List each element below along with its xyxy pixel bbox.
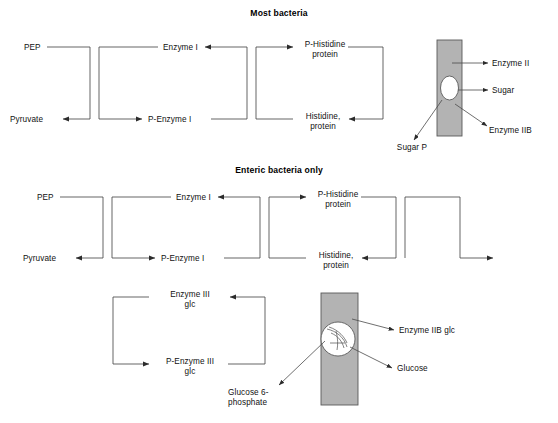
- membrane-1: [437, 40, 462, 136]
- label-histidine-protein-line2: protein: [310, 122, 336, 132]
- label-sugar-p: Sugar P: [397, 143, 427, 153]
- arrow-enzymeIII-to-penzymeIII: [113, 297, 149, 364]
- label-enzyme-iib-glc: Enzyme IIB glc: [399, 326, 455, 336]
- label-enzyme-iii-glc-line2: glc: [185, 300, 196, 310]
- arrow-histidine-to-phistidine-2: [269, 197, 306, 258]
- arrow-pep-to-pyruvate-2: [60, 197, 103, 258]
- label-p-enzyme-iii-glc-line1: P-Enzyme III: [166, 357, 214, 367]
- label-pep-2: PEP: [37, 193, 54, 203]
- callout-glucose-6-phosphate: [279, 341, 325, 385]
- callout-glucose: [350, 347, 392, 368]
- arrow-pep-to-pyruvate: [47, 47, 90, 119]
- arrow-loop-right-up: [405, 197, 460, 258]
- panel-title-most-bacteria: Most bacteria: [250, 8, 307, 18]
- label-pyruvate: Pyruvate: [10, 115, 43, 125]
- arrow-penzymeI-to-enzymeI: [205, 47, 247, 119]
- label-enzyme-iib: Enzyme IIB: [489, 126, 532, 136]
- arrow-phistidine-to-histidine-2: [361, 197, 396, 258]
- arrow-loop-right-down: [460, 197, 493, 258]
- label-p-histidine-protein-2-line2: protein: [325, 200, 351, 210]
- label-enzyme-iii-glc-line1: Enzyme III: [170, 290, 210, 300]
- callout-enzyme-iib-glc: [352, 319, 394, 330]
- membrane-2: [321, 293, 358, 405]
- label-p-enzyme-i-2: P-Enzyme I: [161, 254, 204, 264]
- label-p-histidine-protein-line1: P-Histidine: [305, 40, 346, 50]
- label-pyruvate-2: Pyruvate: [23, 254, 56, 264]
- pathway-line-art: [0, 0, 558, 423]
- label-glucose-6-phosphate-line1: Glucose 6-: [228, 388, 269, 398]
- arrow-histidine-to-phistidine: [256, 47, 293, 119]
- arrow-enzymeI-to-penzymeI-2: [112, 197, 171, 258]
- membrane-rect: [437, 40, 462, 136]
- label-p-enzyme-i: P-Enzyme I: [148, 115, 191, 125]
- pts-pathway-figure: Most bacteria PEP Pyruvate Enzyme I P-En…: [0, 0, 558, 423]
- label-histidine-protein-2-line2: protein: [323, 261, 349, 271]
- panel-1-callouts: [414, 63, 488, 140]
- callout-enzyme-iib: [455, 104, 487, 126]
- label-enzyme-i: Enzyme I: [163, 43, 198, 53]
- arrow-enzymeI-to-penzymeI: [99, 47, 158, 119]
- arrow-penzymeIII-to-enzymeIII: [228, 297, 265, 364]
- label-glucose: Glucose: [397, 364, 428, 374]
- panel-2-callouts: [279, 319, 394, 385]
- pore-scribble: [327, 327, 347, 350]
- callout-sugar-p: [414, 100, 442, 140]
- arrow-penzymeI-to-enzymeI-2: [218, 197, 260, 258]
- label-p-enzyme-iii-glc-line2: glc: [185, 367, 196, 377]
- label-sugar: Sugar: [492, 86, 514, 96]
- label-enzyme-ii: Enzyme II: [492, 59, 529, 69]
- membrane-rect-2: [321, 293, 358, 405]
- label-histidine-protein-2-line1: Histidine,: [319, 251, 354, 261]
- membrane-pore-2: [321, 322, 355, 356]
- label-glucose-6-phosphate-line2: phosphate: [228, 398, 267, 408]
- label-enzyme-i-2: Enzyme I: [176, 193, 211, 203]
- label-histidine-protein-line1: Histidine,: [306, 112, 341, 122]
- label-pep: PEP: [24, 43, 41, 53]
- label-p-histidine-protein-2-line1: P-Histidine: [318, 190, 359, 200]
- panel-title-enteric-bacteria-only: Enteric bacteria only: [235, 165, 323, 175]
- panel-2-arrows: [60, 197, 493, 258]
- label-p-histidine-protein-line2: protein: [312, 50, 338, 60]
- membrane-pore: [441, 76, 459, 100]
- arrow-phistidine-to-histidine: [348, 47, 383, 119]
